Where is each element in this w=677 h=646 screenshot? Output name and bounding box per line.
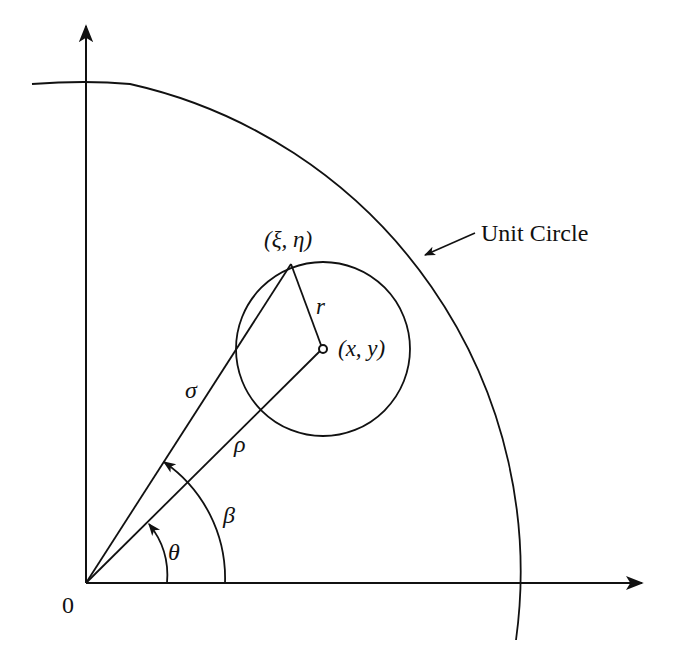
sigma-line — [86, 264, 291, 583]
unit-circle-arc — [32, 82, 521, 640]
theta-label: θ — [168, 540, 180, 564]
origin-label: 0 — [62, 593, 74, 617]
beta-label: β — [223, 503, 235, 527]
rho-label: ρ — [234, 432, 246, 456]
unit-circle-label: Unit Circle — [481, 221, 588, 245]
diagram-canvas — [0, 0, 677, 646]
sigma-label: σ — [185, 378, 197, 402]
rho-line — [86, 351, 320, 583]
radius-label: r — [316, 295, 325, 318]
theta-arc — [149, 524, 167, 583]
unit-circle-pointer-arrow — [425, 233, 475, 255]
boundary-point-label: (ξ, η) — [264, 228, 312, 251]
center-point-label: (x, y) — [338, 337, 385, 360]
